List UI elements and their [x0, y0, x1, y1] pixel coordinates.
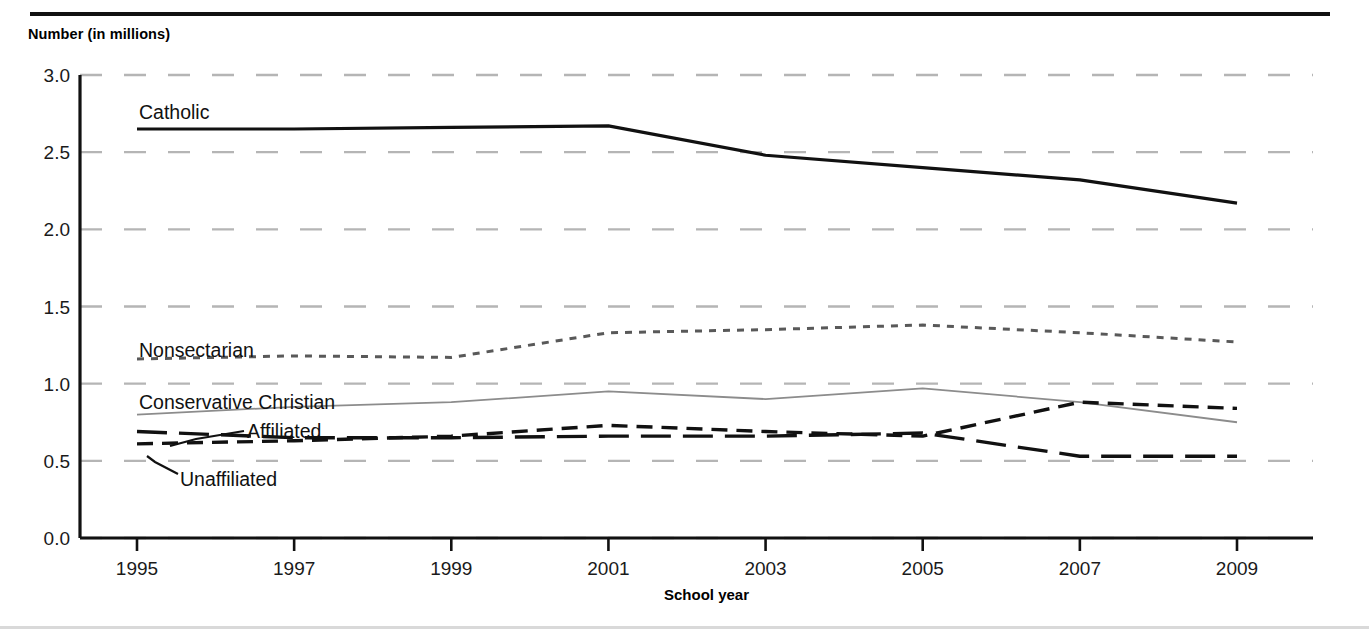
x-tick-label: 2009: [1216, 558, 1258, 579]
x-tick-label: 2001: [587, 558, 629, 579]
line-chart: 0.00.51.01.52.02.53.0 199519971999200120…: [0, 0, 1369, 620]
footer-divider: [0, 626, 1369, 629]
leader-line-unaffiliated: [147, 456, 178, 474]
series-line-catholic: [137, 126, 1237, 203]
x-tick-label: 1995: [116, 558, 158, 579]
series-line-nonsectarian: [137, 325, 1237, 359]
y-tick-label: 0.0: [44, 528, 70, 549]
y-tick-label: 3.0: [44, 65, 70, 86]
x-tick-label: 2005: [902, 558, 944, 579]
y-tick-label: 1.5: [44, 297, 70, 318]
series-label-nonsectarian: Nonsectarian: [139, 341, 254, 361]
x-tick-label: 2003: [744, 558, 786, 579]
x-tick-label: 1997: [273, 558, 315, 579]
x-axis-title-wrap: School year: [0, 586, 1369, 603]
y-tick-labels-group: 0.00.51.01.52.02.53.0: [44, 65, 70, 549]
series-label-conservative-christian: Conservative Christian: [139, 393, 335, 413]
y-tick-label: 0.5: [44, 451, 70, 472]
x-tick-label: 1999: [430, 558, 472, 579]
x-axis-title: School year: [664, 586, 749, 603]
x-tick-labels-group: 19951997199920012003200520072009: [116, 538, 1258, 579]
chart-plot-area: 0.00.51.01.52.02.53.0 199519971999200120…: [0, 0, 1369, 636]
y-tick-label: 1.0: [44, 374, 70, 395]
y-tick-label: 2.0: [44, 219, 70, 240]
y-tick-label: 2.5: [44, 142, 70, 163]
x-tick-label: 2007: [1059, 558, 1101, 579]
series-label-catholic: Catholic: [139, 103, 209, 123]
series-label-affiliated: Affiliated: [247, 422, 321, 442]
series-label-unaffiliated: Unaffiliated: [180, 470, 277, 490]
